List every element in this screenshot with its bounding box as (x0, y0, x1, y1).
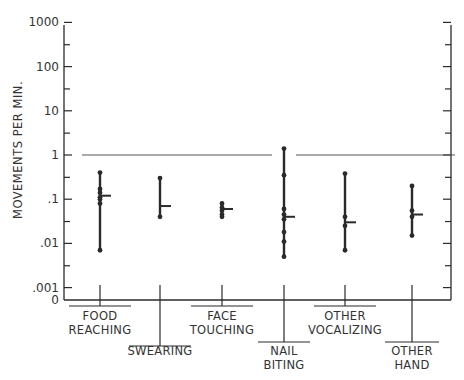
data-point (410, 183, 415, 188)
y-tick-label-zero: 0 (51, 293, 59, 307)
category-label-text: REACHING (69, 323, 132, 337)
category-label-text: TOUCHING (189, 323, 254, 337)
series-swearing (158, 176, 171, 219)
series-face-touching (220, 201, 233, 219)
y-tick-label: .01 (40, 236, 59, 250)
category-label: FOODREACHING (69, 285, 132, 337)
category-label-text: SWEARING (127, 344, 192, 358)
category-label-text: FOOD (83, 309, 118, 323)
data-point (343, 171, 348, 176)
data-point (98, 190, 103, 195)
y-axis-label: MOVEMENTS PER MIN. (11, 81, 25, 219)
axes (64, 25, 451, 300)
category-label-text: HAND (394, 358, 429, 372)
data-point (158, 214, 163, 219)
y-tick-label: 10 (44, 104, 59, 118)
category-label: NAILBITING (258, 285, 310, 372)
y-tick-label: .1 (48, 192, 59, 206)
category-label-text: BITING (263, 358, 304, 372)
data-point (282, 230, 287, 235)
data-point (220, 214, 225, 219)
category-labels: FOODREACHINGSWEARINGFACETOUCHINGNAILBITI… (69, 285, 439, 372)
data-point (158, 176, 163, 181)
category-label: SWEARING (127, 285, 192, 358)
series-other-hand (410, 183, 423, 238)
category-label-text: OTHER (324, 309, 365, 323)
data-point (98, 170, 103, 175)
series-group (98, 146, 423, 259)
category-label-text: NAIL (270, 344, 298, 358)
y-tick-labels: 1000100101.1.01.0010 (28, 15, 59, 307)
chart-svg: 1000100101.1.01.0010 MOVEMENTS PER MIN. … (0, 0, 464, 380)
data-point (282, 239, 287, 244)
data-point (98, 197, 103, 202)
category-label-text: VOCALIZING (308, 323, 382, 337)
category-label: OTHERVOCALIZING (308, 285, 382, 337)
data-point (282, 254, 287, 259)
data-point (343, 248, 348, 253)
data-point (282, 173, 287, 178)
left-ticks (64, 22, 72, 287)
y-tick-label: 100 (36, 60, 59, 74)
category-label: OTHERHAND (385, 285, 439, 372)
category-label-text: FACE (207, 309, 237, 323)
y-tick-label: 1 (51, 148, 59, 162)
data-point (98, 201, 103, 206)
data-point (343, 223, 348, 228)
data-point (410, 233, 415, 238)
data-point (282, 207, 287, 212)
data-point (98, 248, 103, 253)
category-label: FACETOUCHING (189, 285, 254, 337)
series-other-vocalizing (343, 171, 356, 252)
data-point (282, 146, 287, 151)
series-food-reaching (98, 170, 111, 252)
y-tick-label: 1000 (28, 15, 59, 29)
data-point (410, 208, 415, 213)
data-point (343, 214, 348, 219)
series-nail-biting (282, 146, 295, 259)
category-label-text: OTHER (391, 344, 432, 358)
